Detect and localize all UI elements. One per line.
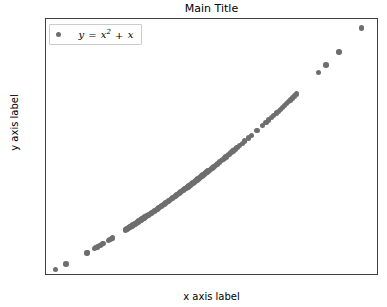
x-tick-mark bbox=[376, 274, 377, 275]
x-tick-mark bbox=[275, 274, 276, 275]
legend-marker-icon bbox=[56, 32, 61, 37]
x-tick-mark bbox=[173, 274, 174, 275]
x-tick-mark bbox=[224, 274, 225, 275]
y-axis-label: y axis label bbox=[9, 63, 20, 183]
x-axis-label: x axis label bbox=[45, 291, 378, 302]
legend-label: y = x2 + x bbox=[78, 28, 133, 40]
chart-title: Main Title bbox=[45, 2, 378, 16]
x-tick-mark bbox=[326, 274, 327, 275]
chart-legend: y = x2 + x bbox=[49, 24, 142, 45]
x-axis-ticks: 0.60.81.01.21.41.61.8 bbox=[46, 19, 377, 274]
plot-area: 1.01.52.02.53.03.54.04.5 0.60.81.01.21.4… bbox=[45, 18, 378, 275]
x-tick-mark bbox=[71, 274, 72, 275]
chart-figure: Main Title 1.01.52.02.53.03.54.04.5 0.60… bbox=[0, 0, 387, 307]
x-tick-mark bbox=[122, 274, 123, 275]
